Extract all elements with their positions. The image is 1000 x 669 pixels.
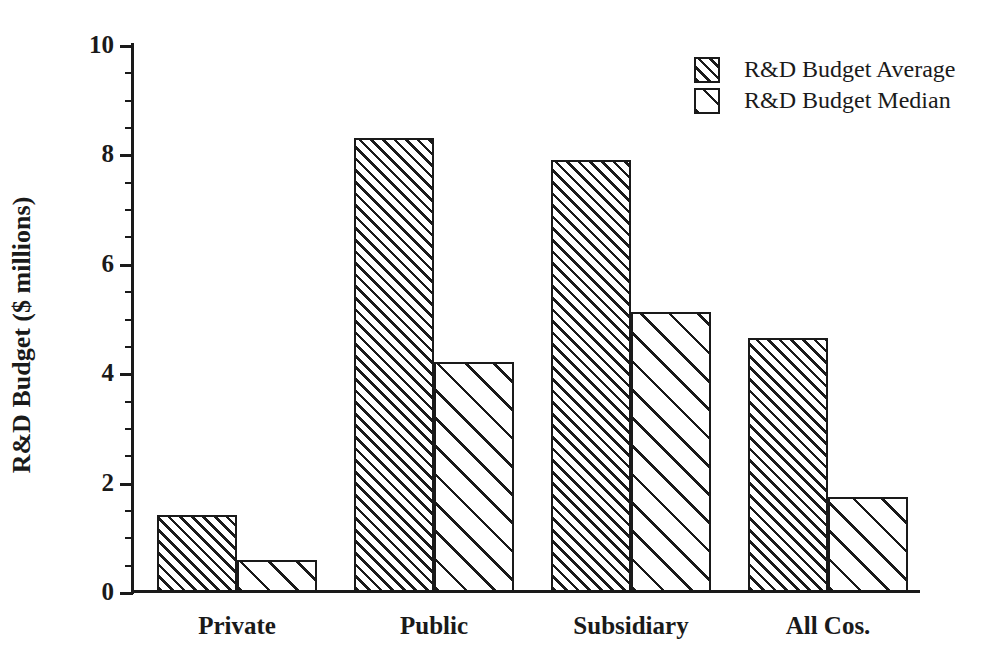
tick-mark — [125, 428, 133, 430]
legend-swatch-median-icon — [694, 88, 720, 114]
tick-mark — [120, 264, 133, 267]
bar-chart: R&D Budget ($ millions) 0246810 PrivateP… — [0, 0, 1000, 669]
tick-mark — [120, 154, 133, 157]
tick-mark — [125, 537, 133, 539]
plot-area — [133, 45, 920, 592]
tick-mark — [120, 483, 133, 486]
bar-median-all-cos — [828, 497, 908, 592]
y-tick-label: 0 — [102, 578, 115, 606]
bar-median-subsidiary — [631, 312, 711, 592]
tick-mark — [125, 209, 133, 211]
bar-average-all-cos — [748, 338, 828, 592]
x-category-label: Private — [198, 612, 276, 640]
legend-label-average: R&D Budget Average — [744, 56, 956, 83]
tick-mark — [125, 319, 133, 321]
tick-mark — [125, 236, 133, 238]
tick-mark — [125, 346, 133, 348]
y-tick-label: 10 — [89, 31, 114, 59]
y-tick-label: 4 — [102, 359, 115, 387]
tick-mark — [125, 182, 133, 184]
legend-item-median: R&D Budget Median — [694, 85, 956, 116]
tick-mark — [125, 72, 133, 74]
legend-item-average: R&D Budget Average — [694, 54, 956, 85]
tick-mark — [125, 401, 133, 403]
legend-label-median: R&D Budget Median — [744, 87, 951, 114]
bar-average-subsidiary — [551, 160, 631, 592]
tick-mark — [125, 127, 133, 129]
x-category-label: All Cos. — [786, 612, 871, 640]
tick-mark — [120, 592, 133, 595]
x-category-label: Subsidiary — [573, 612, 688, 640]
y-axis-title: R&D Budget ($ millions) — [7, 196, 37, 473]
tick-mark — [125, 455, 133, 457]
tick-mark — [120, 45, 133, 48]
legend-swatch-average-icon — [694, 57, 720, 83]
bar-median-private — [237, 560, 317, 592]
y-tick-label: 2 — [102, 469, 115, 497]
bar-average-public — [354, 138, 434, 592]
y-tick-label: 6 — [102, 250, 115, 278]
y-tick-label: 8 — [102, 140, 115, 168]
chart-legend: R&D Budget Average R&D Budget Median — [694, 54, 956, 116]
x-category-label: Public — [400, 612, 468, 640]
tick-mark — [125, 565, 133, 567]
tick-mark — [120, 373, 133, 376]
bar-average-private — [157, 515, 237, 592]
bar-median-public — [434, 362, 514, 592]
tick-mark — [125, 100, 133, 102]
tick-mark — [125, 291, 133, 293]
tick-mark — [125, 510, 133, 512]
